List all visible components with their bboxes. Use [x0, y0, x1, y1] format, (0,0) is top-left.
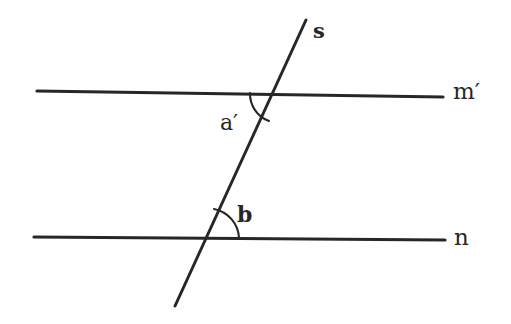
angle-label-a-prime: a′ — [220, 112, 238, 134]
line-label-m-prime: m′ — [453, 80, 480, 103]
geometry-figure: s m′ n a′ b — [0, 0, 511, 324]
line-m-prime — [37, 91, 443, 97]
line-s-transversal — [175, 20, 306, 306]
line-label-n: n — [454, 226, 469, 249]
angle-label-b: b — [237, 203, 252, 225]
line-label-s: s — [313, 20, 325, 41]
geometry-canvas — [0, 0, 511, 324]
